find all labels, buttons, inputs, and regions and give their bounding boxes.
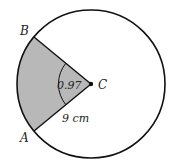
angle-value: 0.97 [57, 79, 82, 92]
label-c: C [98, 78, 107, 92]
sector-diagram: B A C 0.97 9 cm [0, 0, 169, 166]
radius-length: 9 cm [62, 112, 89, 125]
label-b: B [19, 24, 29, 38]
center-point [89, 82, 93, 86]
label-a: A [19, 131, 29, 145]
